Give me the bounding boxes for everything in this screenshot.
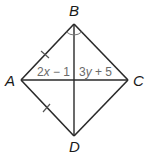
vertex-label-c: C bbox=[133, 72, 144, 89]
geometry-diagram: B A C D 2x − 1 3y + 5 bbox=[0, 0, 149, 157]
segment-label-2x-minus-1: 2x − 1 bbox=[37, 65, 70, 79]
angle-arc-right bbox=[74, 32, 82, 35]
vertex-label-b: B bbox=[69, 2, 79, 19]
segment-label-3y-plus-5: 3y + 5 bbox=[79, 65, 112, 79]
side-cd bbox=[74, 80, 128, 136]
side-da bbox=[21, 80, 74, 136]
angle-arc-left bbox=[67, 32, 75, 35]
vertex-label-a: A bbox=[4, 72, 15, 89]
vertex-label-d: D bbox=[69, 138, 80, 155]
